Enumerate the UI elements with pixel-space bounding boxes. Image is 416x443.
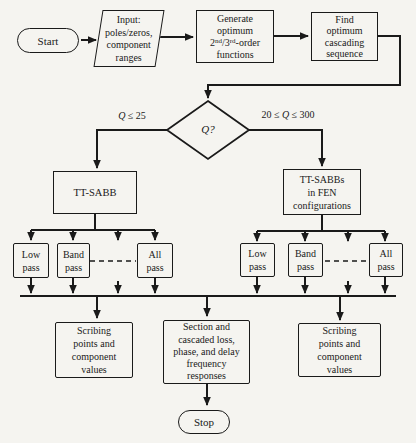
generate-order-line: 2nd/3rd-order (210, 37, 260, 49)
right-lowpass-box: Low pass (240, 243, 275, 277)
generate-line2: optimum (217, 25, 253, 37)
generate-line1: Generate (217, 13, 253, 25)
right-allpass-box: All pass (369, 243, 403, 277)
stop-terminal: Stop (178, 410, 230, 434)
right-bandpass-box: Band pass (288, 243, 323, 277)
scribing-left-box: Scribing points and component values (55, 322, 133, 378)
ttsabbs-label: TT-SABBs in FEN configurations (293, 173, 351, 212)
branch-left-label: Q ≤ 25 (103, 110, 161, 121)
edge-decision-to-ttsabbs (249, 130, 322, 166)
scribing-right-box: Scribing points and component values (298, 323, 381, 377)
section-responses-box: Section and cascaded loss, phase, and de… (163, 320, 250, 384)
input-label: Input: poles/zeros, component ranges (105, 14, 153, 64)
ttsabbs-process: TT-SABBs in FEN configurations (283, 169, 361, 215)
decision-label: Q? (188, 123, 228, 135)
ttsabb-label: TT-SABB (74, 187, 117, 199)
branch-right-label: 20 ≤ Q ≤ 300 (250, 109, 326, 120)
start-label: Start (38, 35, 59, 47)
ttsabb-process: TT-SABB (53, 171, 137, 214)
find-label: Find optimum cascading sequence (325, 14, 364, 60)
left-allpass-box: All pass (137, 243, 173, 278)
generate-process: Generate optimum 2nd/3rd-order functions (196, 10, 274, 63)
flowchart-page: Start Input: poles/zeros, component rang… (0, 0, 416, 443)
start-terminal: Start (17, 28, 79, 53)
left-lowpass-box: Low pass (13, 243, 49, 278)
find-process: Find optimum cascading sequence (311, 12, 378, 61)
edge-decision-to-ttsabb (97, 130, 167, 168)
input-parallelogram: Input: poles/zeros, component ranges (93, 10, 164, 67)
generate-line4: functions (216, 49, 253, 61)
left-bandpass-box: Band pass (57, 243, 90, 278)
stop-label: Stop (194, 416, 214, 428)
